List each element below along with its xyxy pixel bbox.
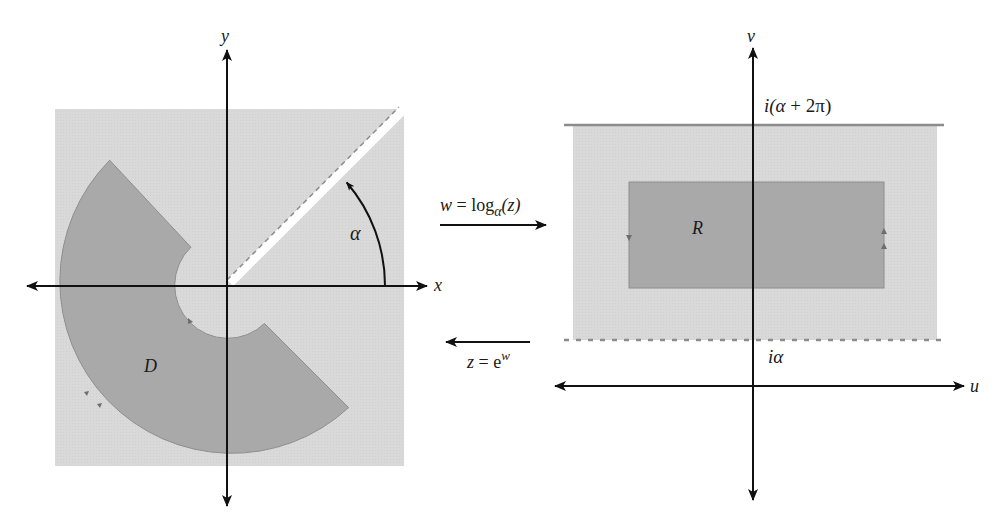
bottom-line-label: iα <box>768 346 784 367</box>
conformal-map-figure: x y D α w = logα(z) z = ew <box>0 0 1002 528</box>
forward-map-w: w <box>440 195 452 215</box>
inverse-mapping: z = ew <box>446 342 530 372</box>
z-plane-panel: x y D α <box>27 26 442 506</box>
top-line-label: i(α + 2π) <box>764 95 831 117</box>
region-R <box>629 182 884 288</box>
u-axis-label: u <box>970 376 979 396</box>
forward-map-arg: (z) <box>502 195 521 216</box>
angle-alpha-label: α <box>350 222 361 244</box>
inverse-map-exponent: w <box>501 348 510 363</box>
v-axis-label: v <box>747 26 755 46</box>
forward-map-log: = log <box>452 195 494 215</box>
svg-text:z = ew: z = ew <box>466 348 510 372</box>
forward-mapping: w = logα(z) <box>440 195 546 225</box>
svg-text:w = logα(z): w = logα(z) <box>440 195 521 219</box>
region-D-label: D <box>143 356 157 376</box>
w-plane-panel: u v R i(α + 2π) iα <box>555 26 979 500</box>
y-axis-label: y <box>219 26 229 46</box>
x-axis-label: x <box>433 275 442 295</box>
inverse-map-z: z <box>466 352 474 372</box>
region-R-label: R <box>691 218 703 238</box>
